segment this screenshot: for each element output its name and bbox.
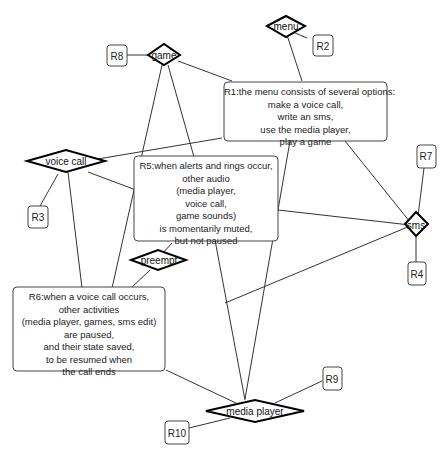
edge-r9-mediaplayer bbox=[275, 381, 322, 403]
ref-r2-label: R2 bbox=[317, 41, 330, 52]
edge-game-r1 bbox=[178, 61, 232, 81]
ref-r9-label: R9 bbox=[326, 374, 339, 385]
edge-r1-sms bbox=[345, 141, 410, 222]
voice-call-label: voice call bbox=[45, 156, 86, 167]
sms-label: sms bbox=[407, 220, 425, 231]
ref-r4-label: R4 bbox=[411, 269, 424, 280]
diagram-canvas: menu game voice call preempt sms media p… bbox=[0, 0, 448, 456]
edge-r5-sms bbox=[278, 210, 410, 225]
edge-r6-mediaplayer bbox=[166, 370, 238, 404]
edge-menu-r1 bbox=[287, 35, 302, 81]
ref-r10-label: R10 bbox=[168, 428, 186, 439]
ref-r8-label: R8 bbox=[111, 51, 124, 62]
preempt-label: preempt bbox=[141, 255, 178, 266]
game-label: game bbox=[151, 50, 176, 61]
edge-voicecall-r5 bbox=[88, 172, 136, 190]
rule-r6-box bbox=[13, 287, 165, 371]
rule-r5-box bbox=[134, 156, 278, 241]
edge-preempt-r6 bbox=[131, 270, 150, 288]
media-player-label: media player bbox=[226, 406, 283, 417]
edge-voicecall-r6 bbox=[68, 172, 82, 288]
edge-r10-mediaplayer bbox=[189, 418, 230, 428]
diagram-edges bbox=[0, 0, 448, 456]
ref-r7-label: R7 bbox=[420, 151, 433, 162]
rule-r1-box bbox=[224, 82, 387, 141]
menu-label: menu bbox=[273, 21, 298, 32]
edge-voicecall-r3 bbox=[40, 174, 58, 206]
edge-r7-sms bbox=[418, 168, 424, 216]
edge-r5-mediaplayer bbox=[215, 240, 245, 400]
ref-r3-label: R3 bbox=[32, 212, 45, 223]
